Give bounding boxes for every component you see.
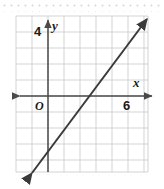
coordinate-plane [0,0,164,189]
origin-label: O [35,100,44,112]
y-axis-label: y [52,19,58,32]
x-tick-label-6: 6 [123,99,130,112]
x-axis-label: x [133,76,140,89]
y-tick-label-4: 4 [34,25,41,38]
graph-figure: y x O 4 6 [0,0,164,189]
